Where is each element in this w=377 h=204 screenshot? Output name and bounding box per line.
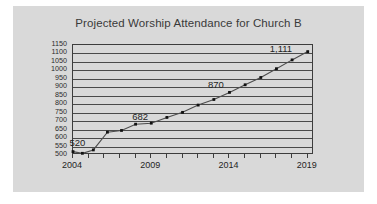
data-point <box>106 131 109 134</box>
x-tick-label: 2019 <box>297 160 317 170</box>
y-tick-label: 1100 <box>52 49 67 56</box>
data-point <box>72 150 75 153</box>
x-tick-label: 2014 <box>218 160 238 170</box>
x-tick <box>103 154 104 158</box>
data-label: 1,111 <box>270 42 292 53</box>
data-point <box>212 98 215 101</box>
data-point <box>166 116 169 119</box>
x-tick <box>197 154 198 158</box>
plot-area <box>72 44 313 154</box>
data-point <box>275 67 278 70</box>
data-point <box>197 104 200 107</box>
x-tick <box>88 154 89 158</box>
x-tick-label: 2004 <box>62 160 82 170</box>
data-point <box>120 129 123 132</box>
y-tick-label: 500 <box>55 150 67 157</box>
y-tick-label: 700 <box>55 117 67 124</box>
x-tick <box>291 154 292 158</box>
data-label: 520 <box>70 137 86 148</box>
y-tick-label: 900 <box>55 83 67 90</box>
x-tick <box>275 154 276 158</box>
x-tick <box>213 154 214 158</box>
y-tick-label: 1050 <box>51 57 67 64</box>
data-label: 870 <box>208 78 224 89</box>
x-tick-label: 2009 <box>140 160 160 170</box>
chart-figure: Projected Worship Attendance for Church … <box>13 6 364 192</box>
x-axis-tick-labels: 2004200920142019 <box>13 160 364 174</box>
data-point <box>228 91 231 94</box>
y-tick-label: 950 <box>55 74 67 81</box>
data-point <box>306 50 309 53</box>
y-tick-label: 650 <box>55 125 67 132</box>
x-axis-ticks <box>72 154 313 159</box>
data-point <box>181 111 184 114</box>
data-point <box>259 76 262 79</box>
y-tick-label: 1000 <box>51 66 67 73</box>
x-tick <box>166 154 167 158</box>
x-tick <box>228 154 229 158</box>
x-tick <box>150 154 151 158</box>
data-point <box>150 122 153 125</box>
data-point <box>291 58 294 61</box>
y-tick-label: 800 <box>55 100 67 107</box>
x-tick <box>72 154 73 158</box>
y-tick-label: 750 <box>55 108 67 115</box>
y-axis-tick-labels: 5005506006507007508008509009501000105011… <box>13 44 70 154</box>
y-tick-label: 600 <box>55 133 67 140</box>
x-tick <box>119 154 120 158</box>
y-tick-label: 850 <box>55 91 67 98</box>
data-point <box>92 149 95 152</box>
x-tick <box>135 154 136 158</box>
data-point <box>244 83 247 86</box>
x-tick <box>307 154 308 158</box>
x-tick <box>182 154 183 158</box>
y-tick-label: 550 <box>55 142 67 149</box>
x-tick <box>260 154 261 158</box>
chart-title: Projected Worship Attendance for Church … <box>13 17 364 29</box>
y-tick-label: 1150 <box>52 40 67 47</box>
data-point <box>134 123 137 126</box>
series-line <box>73 45 314 155</box>
data-point-markers <box>72 50 310 155</box>
x-tick <box>244 154 245 158</box>
data-label: 682 <box>132 111 148 122</box>
